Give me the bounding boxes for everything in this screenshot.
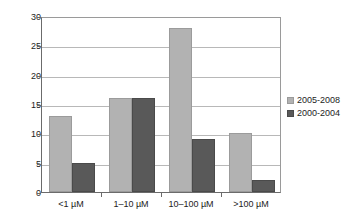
legend: 2005-20082000-2004 (287, 95, 340, 121)
y-tick-label: 10 (7, 130, 41, 139)
x-tick-label: 1–10 µM (101, 199, 161, 209)
y-tick-label: 15 (7, 101, 41, 110)
y-tick-label: 30 (7, 13, 41, 22)
x-tick-label: <1 µM (41, 199, 101, 209)
plot-area (41, 17, 281, 193)
x-tick-mark (101, 193, 102, 197)
bar-chart: 051015202530 <1 µM1–10 µM10–100 µM>100 µ… (0, 0, 348, 221)
legend-item: 2005-2008 (287, 95, 340, 106)
legend-label: 2000-2004 (297, 109, 340, 118)
legend-label: 2005-2008 (297, 96, 340, 105)
legend-item: 2000-2004 (287, 108, 340, 119)
x-tick-mark (221, 193, 222, 197)
bar (229, 133, 252, 192)
bar (109, 98, 132, 192)
y-tick-label: 5 (7, 160, 41, 169)
gridline (42, 47, 280, 48)
legend-swatch-icon (287, 97, 294, 104)
bar (72, 163, 95, 192)
gridline (42, 77, 280, 78)
bar (132, 98, 155, 192)
x-tick-label: >100 µM (221, 199, 281, 209)
bar (49, 116, 72, 192)
y-tick-mark (37, 193, 41, 194)
bar (252, 180, 275, 192)
y-tick-label: 0 (7, 189, 41, 198)
bar (192, 139, 215, 192)
y-tick-label: 20 (7, 72, 41, 81)
legend-swatch-icon (287, 110, 294, 117)
y-axis: 051015202530 (0, 0, 41, 221)
bar (169, 28, 192, 192)
x-tick-mark (161, 193, 162, 197)
y-tick-label: 25 (7, 42, 41, 51)
gridline (42, 106, 280, 107)
x-tick-label: 10–100 µM (161, 199, 221, 209)
